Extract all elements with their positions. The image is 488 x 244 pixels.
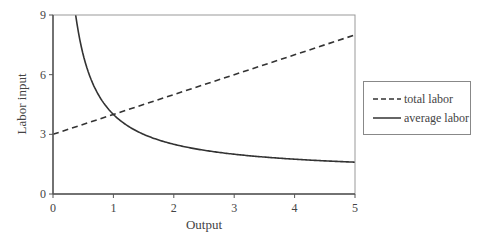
x-tick-label: 0: [50, 201, 56, 215]
y-tick-label: 6: [40, 68, 46, 82]
y-tick-label: 9: [40, 8, 46, 22]
x-tick-label: 1: [110, 201, 116, 215]
x-tick-label: 5: [352, 201, 358, 215]
plot-area: [53, 15, 355, 162]
legend-box: [364, 82, 471, 135]
x-tick-label: 2: [171, 201, 177, 215]
series-average-labor: [76, 15, 355, 162]
axes: 0369012345: [40, 8, 358, 215]
x-tick-label: 4: [292, 201, 298, 215]
legend: total labor average labor: [364, 82, 471, 135]
y-tick-label: 3: [40, 127, 46, 141]
y-axis-label: Labor input: [14, 73, 29, 134]
plot-frame: [53, 15, 355, 194]
x-tick-label: 3: [231, 201, 237, 215]
chart: 0369012345 Labor input Output total labo…: [0, 0, 488, 244]
y-tick-label: 0: [40, 187, 46, 201]
legend-label-total-labor: total labor: [404, 92, 453, 106]
x-axis-label: Output: [186, 217, 223, 232]
series-total-labor: [53, 35, 355, 134]
legend-label-average-labor: average labor: [404, 111, 469, 125]
